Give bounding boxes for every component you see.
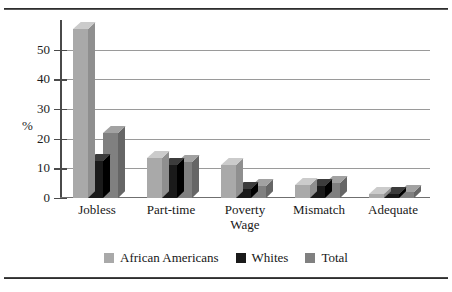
y-axis-tick <box>54 109 67 110</box>
x-axis-label-line: Adequate <box>356 202 430 217</box>
gridline <box>60 79 430 80</box>
legend-item-african-americans: African Americans <box>104 250 219 266</box>
y-axis-label: % <box>22 118 33 134</box>
figure-container: % 01020304050 JoblessPart-timePovertyWag… <box>0 0 452 292</box>
legend-swatch-total <box>305 253 315 263</box>
bottom-rule <box>4 277 448 279</box>
y-axis-tick <box>54 79 67 80</box>
bar-face <box>147 158 162 198</box>
y-axis-tick-label: 20 <box>37 131 50 147</box>
top-rule <box>4 8 448 10</box>
x-axis-label-adequate: Adequate <box>356 202 430 217</box>
bar-side <box>177 159 184 198</box>
bar-face <box>221 165 236 198</box>
bar-side <box>118 126 125 198</box>
bar-face <box>73 29 88 198</box>
legend-swatch-african-americans <box>104 253 114 263</box>
x-axis-label-mismatch: Mismatch <box>282 202 356 217</box>
y-axis-tick <box>54 50 67 51</box>
legend-label: Total <box>321 250 348 266</box>
bar-side <box>236 159 243 198</box>
bar-jobless-african-americans <box>73 29 88 198</box>
x-axis-label-poverty-wage: PovertyWage <box>208 202 282 232</box>
bar-side <box>162 151 169 198</box>
plot-area: 01020304050 <box>60 20 430 198</box>
bar-side <box>103 154 110 198</box>
bar-adequate-african-americans <box>369 194 384 198</box>
y-axis-tick <box>54 198 67 199</box>
y-axis-tick-label: 0 <box>44 190 51 206</box>
legend-item-total: Total <box>305 250 348 266</box>
y-axis-tick <box>54 168 67 169</box>
legend-label: Whites <box>252 250 289 266</box>
legend-swatch-whites <box>236 253 246 263</box>
bar-face <box>369 194 384 198</box>
bar-side <box>192 156 199 198</box>
x-axis-label-line: Part-time <box>134 202 208 217</box>
y-axis-tick-label: 30 <box>37 101 50 117</box>
x-axis-label-part-time: Part-time <box>134 202 208 217</box>
x-axis-label-line: Jobless <box>60 202 134 217</box>
legend-item-whites: Whites <box>236 250 289 266</box>
x-axis-label-line: Poverty <box>208 202 282 217</box>
bar-part-time-african-americans <box>147 158 162 198</box>
y-axis-tick-label: 40 <box>37 71 50 87</box>
bar-face <box>295 185 310 198</box>
bar-side <box>88 22 95 198</box>
legend-label: African Americans <box>120 250 219 266</box>
y-axis-tick-label: 50 <box>37 42 50 58</box>
x-axis-label-line: Mismatch <box>282 202 356 217</box>
y-axis-tick <box>54 139 67 140</box>
bar-mismatch-african-americans <box>295 185 310 198</box>
x-axis-label-line: Wage <box>208 217 282 232</box>
bar-poverty-wage-african-americans <box>221 165 236 198</box>
chart-legend: African AmericansWhitesTotal <box>0 250 452 266</box>
y-axis-tick-label: 10 <box>37 160 50 176</box>
gridline <box>60 109 430 110</box>
gridline <box>60 50 430 51</box>
x-axis-label-jobless: Jobless <box>60 202 134 217</box>
